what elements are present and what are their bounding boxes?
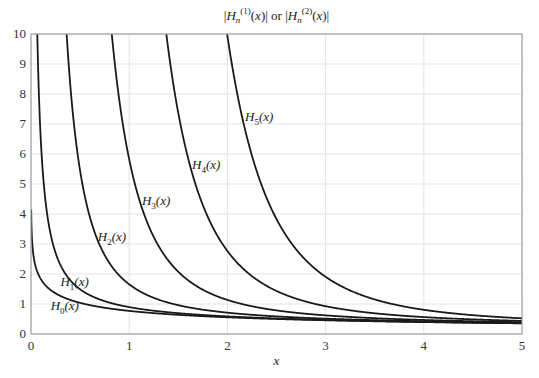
x-axis-label: x xyxy=(273,353,280,368)
curves xyxy=(31,19,522,323)
chart-title: |Hn(1)(x)| or |Hn(2)(x)| xyxy=(224,6,329,25)
curve-h1 xyxy=(37,19,522,323)
curve-h2 xyxy=(66,19,522,323)
chart: 012345678910 012345 H0(x)H1(x)H2(x)H3(x)… xyxy=(0,0,539,378)
y-tick-label: 9 xyxy=(20,56,27,71)
y-tick-label: 7 xyxy=(20,116,27,131)
y-tick-label: 8 xyxy=(20,86,27,101)
x-tick-label: 2 xyxy=(224,338,231,353)
x-tick-label: 1 xyxy=(126,338,133,353)
y-tick-label: 0 xyxy=(20,326,27,341)
y-tick-label: 4 xyxy=(20,206,27,221)
y-tick-label: 1 xyxy=(20,296,27,311)
y-tick-label: 6 xyxy=(20,146,27,161)
y-tick-label: 5 xyxy=(20,176,27,191)
x-tick-label: 5 xyxy=(519,338,526,353)
x-tick-label: 3 xyxy=(322,338,329,353)
x-tick-label: 4 xyxy=(421,338,428,353)
y-tick-label: 10 xyxy=(13,26,26,41)
curve-label: H0(x) xyxy=(50,298,79,316)
curve-label: H4(x) xyxy=(191,157,220,175)
y-tick-label: 2 xyxy=(20,266,27,281)
curve-label: H1(x) xyxy=(59,274,88,292)
x-axis-ticks: 012345 xyxy=(28,338,526,353)
y-tick-label: 3 xyxy=(20,236,27,251)
y-axis-ticks: 012345678910 xyxy=(13,26,27,341)
curve-labels: H0(x)H1(x)H2(x)H3(x)H4(x)H5(x) xyxy=(50,109,274,316)
curve-label: H3(x) xyxy=(141,193,170,211)
curve-h0 xyxy=(31,209,522,323)
grid xyxy=(31,34,522,334)
x-tick-label: 0 xyxy=(28,338,35,353)
